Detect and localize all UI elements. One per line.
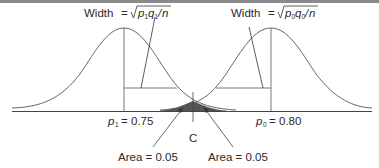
svg-text:=: = — [268, 7, 275, 19]
right-width-label: Width = p 0 q 0 / n — [231, 6, 318, 20]
left-mean-label: p 1 = 0.75 — [107, 115, 153, 128]
right-normal-curve — [160, 28, 372, 110]
svg-text:Width: Width — [231, 7, 260, 19]
svg-text:n: n — [162, 7, 168, 19]
svg-text:=: = — [121, 7, 128, 19]
svg-text:1: 1 — [115, 121, 119, 128]
right-area-arrow — [204, 107, 234, 147]
left-area-label: Area = 0.05 — [118, 151, 178, 163]
left-width-label: Width = p 1 q 1 / n — [84, 6, 171, 20]
left-width-pointer — [141, 17, 155, 88]
right-mean-label: p 0 = 0.80 — [255, 115, 301, 128]
svg-text:Width: Width — [84, 7, 113, 19]
svg-text:0.80: 0.80 — [279, 115, 301, 127]
top-rule — [0, 0, 379, 3]
right-area-label: Area = 0.05 — [208, 151, 268, 163]
left-area-arrow — [153, 107, 184, 147]
critical-value-label: C — [189, 132, 197, 144]
svg-text:=: = — [121, 115, 128, 127]
diagram-canvas: Width = p 1 q 1 / n Width = p 0 q 0 / n … — [0, 0, 379, 168]
svg-text:=: = — [269, 115, 276, 127]
svg-text:n: n — [309, 7, 315, 19]
right-width-pointer — [249, 27, 263, 88]
svg-text:0: 0 — [263, 121, 267, 128]
svg-text:0.75: 0.75 — [131, 115, 153, 127]
svg-text:p: p — [255, 115, 263, 127]
svg-text:p: p — [107, 115, 115, 127]
